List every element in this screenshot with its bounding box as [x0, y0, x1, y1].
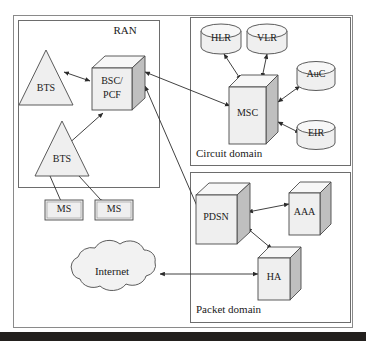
- diagram-canvas: RAN Circuit domain Packet domain BTS BTS…: [0, 0, 366, 341]
- page-footer-bar: [0, 332, 366, 341]
- node-label-bts-bottom: BTS: [46, 154, 78, 165]
- node-label-internet: Internet: [82, 266, 142, 278]
- diagram-svg: [0, 0, 366, 341]
- node-label-auc: AuC: [297, 69, 335, 80]
- group-label-packet-domain: Packet domain: [196, 304, 306, 316]
- node-bts-top[interactable]: [19, 50, 73, 105]
- node-label-pdsn: PDSN: [195, 212, 237, 223]
- link-bscpcf-msc: [145, 72, 230, 106]
- node-label-msc: MSC: [229, 108, 266, 119]
- link-bscpcf-btstop: [64, 72, 90, 81]
- node-label-vlr: VLR: [247, 33, 287, 44]
- link-hlr-msc: [224, 54, 241, 80]
- node-label-ha: HA: [258, 272, 290, 283]
- group-label-ran: RAN: [105, 25, 145, 37]
- node-label-eir: EIR: [297, 128, 335, 139]
- node-label-aaa: AAA: [289, 207, 320, 218]
- node-label-bsc-pcf-line1: BSC/: [92, 76, 132, 87]
- link-bscpcf-pdsn: [145, 86, 200, 213]
- node-label-bsc-pcf-line2: PCF: [92, 90, 132, 101]
- node-bts-bottom[interactable]: [35, 121, 89, 176]
- link-pdsn-aaa: [248, 204, 289, 212]
- group-label-circuit-domain: Circuit domain: [196, 148, 306, 160]
- link-msc-auc: [278, 86, 300, 102]
- link-pdsn-ha: [247, 228, 272, 249]
- node-label-bts-top: BTS: [30, 83, 62, 94]
- link-vlr-msc: [262, 54, 267, 78]
- node-label-ms-right: MS: [95, 204, 133, 215]
- node-label-hlr: HLR: [201, 33, 241, 44]
- node-label-ms-left: MS: [45, 204, 83, 215]
